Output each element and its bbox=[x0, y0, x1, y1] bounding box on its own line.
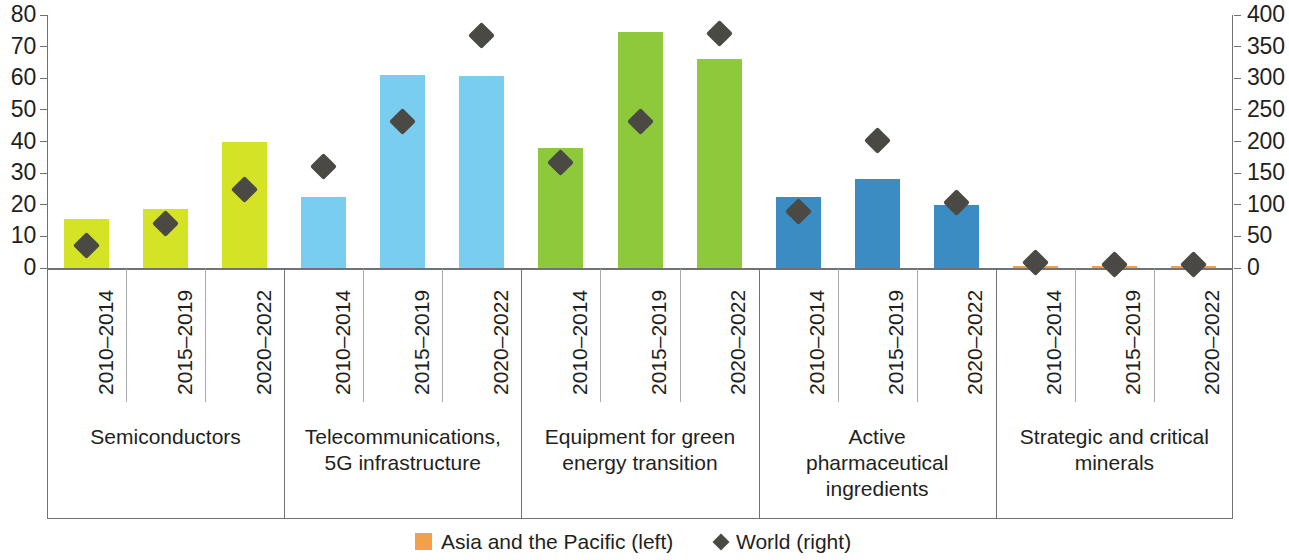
period-label: 2015–2019 bbox=[648, 290, 669, 395]
group-separator bbox=[996, 269, 997, 519]
group-label-line: pharmaceutical bbox=[759, 450, 996, 476]
left-axis-tick bbox=[40, 204, 47, 205]
category-band-right-edge bbox=[1232, 269, 1233, 519]
bar bbox=[618, 32, 663, 268]
right-axis-tick-label: 100 bbox=[1247, 193, 1289, 216]
group-label-line: Active bbox=[759, 424, 996, 450]
right-axis-tick bbox=[1234, 173, 1241, 174]
left-axis-tick-label: 40 bbox=[0, 130, 36, 153]
category-band-bottom-rule bbox=[47, 518, 1233, 519]
period-separator bbox=[838, 269, 839, 402]
left-axis-tick bbox=[40, 109, 47, 110]
right-axis-tick bbox=[1234, 78, 1241, 79]
group-label-line: Semiconductors bbox=[47, 424, 284, 450]
left-axis-tick-label: 20 bbox=[0, 193, 36, 216]
legend-label-asia-pacific: Asia and the Pacific (left) bbox=[441, 531, 673, 552]
right-axis-tick-label: 300 bbox=[1247, 66, 1289, 89]
period-label: 2010–2014 bbox=[806, 290, 827, 395]
bar bbox=[301, 197, 346, 268]
right-axis-tick-label: 250 bbox=[1247, 98, 1289, 121]
category-axis-band: 2010–20142015–20192020–2022Semiconductor… bbox=[47, 269, 1233, 519]
world-marker-diamond bbox=[310, 153, 337, 180]
period-label: 2015–2019 bbox=[174, 290, 195, 395]
left-axis-tick bbox=[40, 141, 47, 142]
period-label: 2010–2014 bbox=[95, 290, 116, 395]
legend-square-icon bbox=[415, 533, 432, 550]
group-label: Activepharmaceuticalingredients bbox=[759, 424, 996, 502]
left-axis-tick-label: 50 bbox=[0, 98, 36, 121]
group-label: Strategic and criticalminerals bbox=[996, 424, 1233, 476]
period-label: 2015–2019 bbox=[411, 290, 432, 395]
group-label-line: ingredients bbox=[759, 476, 996, 502]
left-axis-tick bbox=[40, 46, 47, 47]
legend-label-world: World (right) bbox=[736, 531, 851, 552]
group-label-line: Equipment for green bbox=[521, 424, 758, 450]
group-label: Semiconductors bbox=[47, 424, 284, 450]
period-separator bbox=[1154, 269, 1155, 402]
right-axis-tick-label: 50 bbox=[1247, 224, 1289, 247]
group-label: Telecommunications,5G infrastructure bbox=[284, 424, 521, 476]
left-axis-tick bbox=[40, 236, 47, 237]
bar bbox=[222, 142, 267, 268]
period-separator bbox=[600, 269, 601, 402]
world-marker-diamond bbox=[468, 22, 495, 49]
group-label-line: energy transition bbox=[521, 450, 758, 476]
period-label: 2020–2022 bbox=[727, 290, 748, 395]
period-separator bbox=[917, 269, 918, 402]
period-label: 2015–2019 bbox=[885, 290, 906, 395]
period-separator bbox=[126, 269, 127, 402]
left-axis-tick-label: 10 bbox=[0, 224, 36, 247]
left-axis-tick bbox=[40, 173, 47, 174]
period-label: 2020–2022 bbox=[1201, 290, 1222, 395]
period-label: 2010–2014 bbox=[569, 290, 590, 395]
period-label: 2020–2022 bbox=[964, 290, 985, 395]
period-label: 2020–2022 bbox=[253, 290, 274, 395]
period-label: 2015–2019 bbox=[1122, 290, 1143, 395]
right-axis-tick-label: 150 bbox=[1247, 161, 1289, 184]
group-label-line: minerals bbox=[996, 450, 1233, 476]
bar bbox=[459, 76, 504, 268]
period-label: 2010–2014 bbox=[332, 290, 353, 395]
left-axis-tick-label: 60 bbox=[0, 66, 36, 89]
chart-legend: Asia and the Pacific (left) World (right… bbox=[0, 527, 1276, 560]
group-label-line: 5G infrastructure bbox=[284, 450, 521, 476]
right-axis-tick bbox=[1234, 204, 1241, 205]
left-axis-tick-label: 30 bbox=[0, 161, 36, 184]
right-axis-tick bbox=[1234, 141, 1241, 142]
right-axis-tick-label: 350 bbox=[1247, 35, 1289, 58]
period-separator bbox=[680, 269, 681, 402]
group-label-line: Strategic and critical bbox=[996, 424, 1233, 450]
left-axis-tick-label: 70 bbox=[0, 35, 36, 58]
period-separator bbox=[442, 269, 443, 402]
left-axis-tick bbox=[40, 78, 47, 79]
bar bbox=[380, 75, 425, 268]
period-separator bbox=[363, 269, 364, 402]
right-axis-tick bbox=[1234, 268, 1241, 269]
world-marker-diamond bbox=[864, 127, 891, 154]
right-axis-tick bbox=[1234, 15, 1241, 16]
group-separator bbox=[521, 269, 522, 519]
legend-item-world: World (right) bbox=[715, 531, 851, 552]
legend-item-asia-pacific: Asia and the Pacific (left) bbox=[415, 531, 673, 552]
right-axis-tick-label: 200 bbox=[1247, 130, 1289, 153]
group-separator bbox=[284, 269, 285, 519]
legend-diamond-icon bbox=[713, 533, 730, 550]
category-band-left-edge bbox=[47, 269, 48, 519]
period-label: 2020–2022 bbox=[490, 290, 511, 395]
right-axis-tick-label: 0 bbox=[1247, 256, 1289, 279]
group-label: Equipment for greenenergy transition bbox=[521, 424, 758, 476]
bar bbox=[855, 179, 900, 268]
world-marker-diamond bbox=[706, 21, 733, 48]
period-label: 2010–2014 bbox=[1043, 290, 1064, 395]
plot-area bbox=[47, 15, 1233, 268]
left-axis-tick bbox=[40, 15, 47, 16]
right-axis-tick bbox=[1234, 46, 1241, 47]
bar bbox=[697, 59, 742, 268]
group-label-line: Telecommunications, bbox=[284, 424, 521, 450]
left-axis-tick bbox=[40, 268, 47, 269]
period-separator bbox=[205, 269, 206, 402]
left-axis-tick-label: 80 bbox=[0, 3, 36, 26]
right-axis-tick bbox=[1234, 236, 1241, 237]
period-separator bbox=[1075, 269, 1076, 402]
